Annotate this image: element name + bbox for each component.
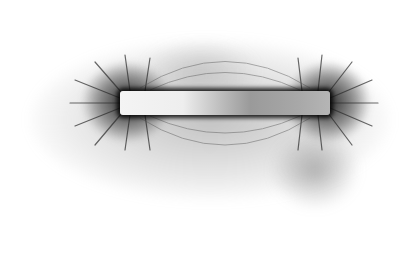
bar-magnet — [120, 91, 330, 115]
iron-filings-magnet-photo — [0, 0, 418, 267]
field-lines — [0, 0, 418, 267]
